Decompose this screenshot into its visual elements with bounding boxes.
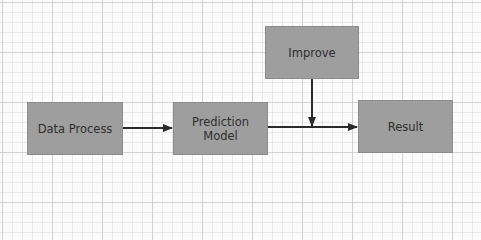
result-node[interactable]: Result bbox=[358, 100, 453, 153]
data-process-label: Data Process bbox=[38, 122, 113, 136]
edges-layer bbox=[0, 0, 481, 187]
result-label: Result bbox=[388, 120, 424, 134]
prediction-model-node[interactable]: Prediction Model bbox=[173, 102, 268, 155]
improve-label: Improve bbox=[288, 46, 335, 60]
prediction-model-label-line2: Model bbox=[203, 129, 238, 143]
prediction-model-label-line1: Prediction bbox=[192, 115, 249, 129]
improve-node[interactable]: Improve bbox=[265, 26, 359, 79]
data-process-node[interactable]: Data Process bbox=[27, 102, 123, 155]
